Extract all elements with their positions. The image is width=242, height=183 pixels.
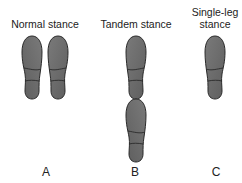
panel-c-feet bbox=[205, 36, 225, 99]
panel-b-letter: B bbox=[131, 165, 139, 179]
panel-a-letter: A bbox=[42, 165, 50, 179]
panel-c-letter: C bbox=[212, 165, 221, 179]
single-foot-icon bbox=[205, 36, 225, 99]
panel-b-feet bbox=[126, 36, 146, 162]
front-foot-icon bbox=[126, 36, 146, 99]
panel-a-feet bbox=[22, 36, 68, 99]
right-foot-icon bbox=[48, 36, 68, 99]
footprints-illustration bbox=[0, 0, 242, 183]
left-foot-icon bbox=[22, 36, 42, 99]
back-foot-icon bbox=[126, 99, 146, 162]
